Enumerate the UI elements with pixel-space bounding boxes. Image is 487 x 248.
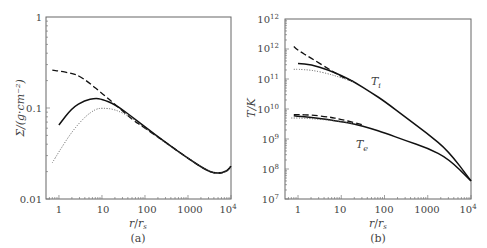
curve-dotted bbox=[52, 108, 231, 173]
xtick-a-10: 10 bbox=[97, 204, 110, 215]
xtick-b-1000: 1000 bbox=[414, 204, 439, 215]
caption-a: (a) bbox=[130, 232, 145, 245]
figure: 1 0.1 0.01 1 10 100 1000 104 Σ/(g·cm⁻²) … bbox=[0, 0, 487, 248]
ytick-b-4: 109 bbox=[262, 133, 279, 145]
curves-b bbox=[291, 47, 471, 181]
annotation-te: Te bbox=[356, 138, 368, 153]
ylabel-a: Σ/(g·cm⁻²) bbox=[14, 79, 27, 137]
ylabel-b: T/K bbox=[245, 98, 258, 118]
curve-solid bbox=[59, 99, 231, 174]
xtick-b-1: 1 bbox=[295, 204, 301, 215]
panel-b: 1012 1012 1011 1010 109 108 107 1 10 100… bbox=[245, 13, 477, 245]
ytick-a-0.01: 0.01 bbox=[20, 194, 42, 205]
ytick-b-2: 1011 bbox=[257, 73, 279, 85]
curves-a bbox=[52, 70, 231, 173]
xtick-b-100: 100 bbox=[374, 204, 393, 215]
ytick-b-0: 1012 bbox=[257, 13, 279, 25]
xtick-a-10000: 104 bbox=[219, 203, 237, 215]
plot-frame-b bbox=[285, 19, 471, 199]
ytick-b-5: 108 bbox=[262, 163, 279, 175]
axis-ticks-a bbox=[46, 21, 231, 199]
xlabel-b: r/rs bbox=[369, 217, 387, 231]
curve-dashed bbox=[52, 70, 231, 173]
axis-ticks-b bbox=[285, 20, 471, 199]
xlabel-a: r/rs bbox=[129, 217, 147, 231]
annotation-ti: Ti bbox=[371, 75, 381, 90]
xtick-a-1000: 1000 bbox=[177, 204, 202, 215]
curve-solid bbox=[298, 63, 471, 180]
ytick-a-0.1: 0.1 bbox=[26, 103, 42, 114]
ytick-a-1: 1 bbox=[36, 12, 42, 23]
xtick-a-1: 1 bbox=[56, 204, 62, 215]
ytick-b-6: 107 bbox=[262, 193, 279, 205]
panel-a: 1 0.1 0.01 1 10 100 1000 104 Σ/(g·cm⁻²) … bbox=[14, 12, 237, 245]
xtick-a-100: 100 bbox=[137, 204, 156, 215]
caption-b: (b) bbox=[370, 232, 386, 245]
xtick-b-10: 10 bbox=[334, 204, 347, 215]
xtick-b-10000: 104 bbox=[459, 203, 477, 215]
ytick-b-3: 1010 bbox=[257, 103, 279, 115]
curve-dotted bbox=[294, 69, 355, 82]
ytick-b-1: 1012 bbox=[257, 42, 279, 54]
yticks-b: 1012 1012 1011 1010 109 108 107 bbox=[257, 13, 279, 205]
